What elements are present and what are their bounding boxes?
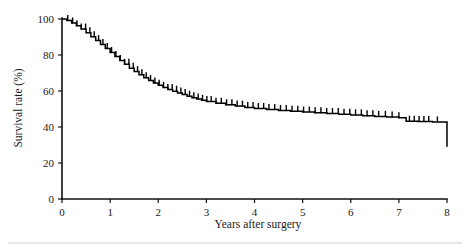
y-tick-label-100: 100 xyxy=(38,13,55,25)
y-tick-label-0: 0 xyxy=(49,193,55,205)
kaplan-meier-plot: 020406080100 012345678 Years after surge… xyxy=(0,0,470,249)
x-tick-label-2: 2 xyxy=(156,206,162,218)
x-tick-label-5: 5 xyxy=(300,206,306,218)
x-tick-label-4: 4 xyxy=(252,206,258,218)
x-tick-label-8: 8 xyxy=(444,206,450,218)
y-tick-label-80: 80 xyxy=(43,49,55,61)
y-tick-label-40: 40 xyxy=(43,121,55,133)
x-tick-label-6: 6 xyxy=(348,206,354,218)
x-tick-label-1: 1 xyxy=(107,206,113,218)
survival-curve-figure: 020406080100 012345678 Years after surge… xyxy=(0,0,470,249)
survival-curve-path xyxy=(62,19,447,147)
x-tick-label-3: 3 xyxy=(204,206,210,218)
y-axis-tick-labels: 020406080100 xyxy=(38,13,55,205)
x-tick-label-7: 7 xyxy=(396,206,402,218)
y-tick-label-20: 20 xyxy=(43,157,55,169)
y-axis-title: Survival rate (%) xyxy=(12,68,25,147)
x-axis-tick-labels: 012345678 xyxy=(59,206,450,218)
censoring-tick-marks xyxy=(68,15,438,123)
axis-tick-marks xyxy=(58,19,447,203)
x-tick-label-0: 0 xyxy=(59,206,65,218)
y-tick-label-60: 60 xyxy=(43,85,55,97)
x-axis-title: Years after surgery xyxy=(215,218,302,231)
